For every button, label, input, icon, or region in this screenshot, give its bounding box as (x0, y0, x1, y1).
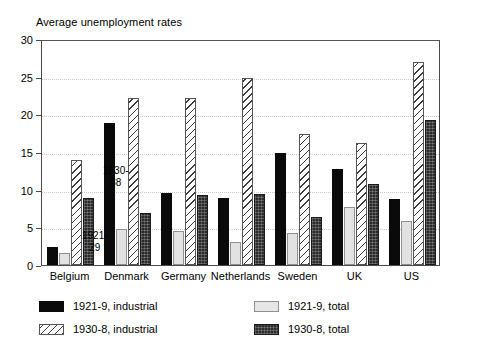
annotation-1930-38-line2: 38 (103, 177, 129, 189)
legend-swatch-1930-8-industrial (39, 324, 64, 335)
legend-label-1921-9-total: 1921-9, total (288, 300, 349, 312)
legend-entry-1921-9-industrial: 1921-9, industrial (39, 300, 157, 312)
bar-us-series3 (425, 120, 437, 265)
bar-belgium-series2 (71, 160, 83, 265)
bar-germany-series1 (173, 231, 185, 265)
annotation-1930-38: 1930- 38 (103, 165, 129, 189)
bar-denmark-series2 (128, 98, 140, 265)
bar-netherlands-series0 (218, 198, 230, 265)
annotation-1921-29-line1: 1921- (82, 230, 108, 242)
bar-netherlands-series1 (230, 242, 242, 265)
plot-area: 1921- 29 1930- 38 (41, 40, 440, 266)
bar-belgium-series1 (59, 253, 71, 265)
bar-germany-series3 (197, 195, 209, 265)
bar-denmark-series1 (116, 229, 128, 265)
legend-entry-1930-8-industrial: 1930-8, industrial (39, 323, 157, 335)
y-tick-label-10: 10 (21, 185, 33, 197)
chart-legend: 1921-9, industrial 1930-8, industrial 19… (36, 300, 456, 344)
x-tick-label-netherlands: Netherlands (211, 270, 270, 282)
y-tick-label-0: 0 (27, 260, 33, 272)
legend-swatch-1921-9-industrial (39, 301, 64, 312)
legend-swatch-1921-9-total (254, 301, 279, 312)
bar-uk-series0 (332, 169, 344, 265)
y-axis: 051015202530 (0, 40, 41, 266)
bar-uk-series1 (344, 207, 356, 265)
y-tick-label-15: 15 (21, 147, 33, 159)
x-tick-label-uk: UK (347, 270, 362, 282)
x-tick-label-sweden: Sweden (278, 270, 318, 282)
x-tick-label-germany: Germany (161, 270, 206, 282)
annotation-1921-29: 1921- 29 (82, 230, 108, 254)
annotation-1930-38-line1: 1930- (103, 165, 129, 177)
legend-label-1930-8-industrial: 1930-8, industrial (73, 323, 157, 335)
bar-sweden-series0 (275, 153, 287, 265)
x-tick-label-denmark: Denmark (104, 270, 149, 282)
y-tick-label-25: 25 (21, 72, 33, 84)
legend-label-1921-9-industrial: 1921-9, industrial (73, 300, 157, 312)
bar-netherlands-series2 (242, 78, 254, 265)
y-tick-label-20: 20 (21, 109, 33, 121)
bar-us-series2 (413, 62, 425, 265)
x-tick-label-us: US (404, 270, 419, 282)
x-axis: BelgiumDenmarkGermanyNetherlandsSwedenUK… (41, 266, 440, 288)
bar-us-series1 (401, 221, 413, 265)
y-tick-label-30: 30 (21, 34, 33, 46)
annotation-1921-29-line2: 29 (82, 242, 108, 254)
bar-sweden-series2 (299, 134, 311, 265)
bar-germany-series2 (185, 98, 197, 265)
chart-title: Average unemployment rates (36, 16, 182, 28)
bar-denmark-series3 (140, 213, 152, 265)
y-tick-label-5: 5 (27, 222, 33, 234)
x-tick-label-belgium: Belgium (50, 270, 90, 282)
bar-uk-series3 (368, 184, 380, 265)
bar-germany-series0 (161, 193, 173, 265)
legend-entry-1930-8-total: 1930-8, total (254, 323, 349, 335)
bar-netherlands-series3 (254, 194, 266, 265)
chart-figure: Average unemployment rates 051015202530 … (0, 0, 481, 347)
bar-sweden-series1 (287, 233, 299, 265)
bar-belgium-series0 (47, 247, 59, 265)
legend-swatch-1930-8-total (254, 324, 279, 335)
legend-label-1930-8-total: 1930-8, total (288, 323, 349, 335)
bar-us-series0 (389, 199, 401, 265)
legend-entry-1921-9-total: 1921-9, total (254, 300, 349, 312)
bar-sweden-series3 (311, 217, 323, 265)
bar-uk-series2 (356, 143, 368, 265)
